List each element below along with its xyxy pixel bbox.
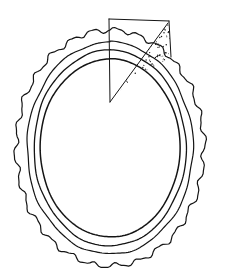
stipple-dot [148, 56, 149, 57]
stipple-dot [150, 64, 151, 65]
stipple-dot [126, 81, 127, 82]
stipple-dot [135, 72, 136, 73]
stipple-dot [168, 32, 169, 33]
stipple-dot [166, 36, 167, 37]
stipple-dot [167, 24, 168, 25]
stipple-dot [166, 44, 168, 46]
stipple-dot [159, 37, 160, 38]
stipple-dot [157, 44, 158, 45]
stipple-dot [143, 69, 144, 70]
stipple-dot [166, 35, 167, 36]
stipple-dot [149, 52, 150, 53]
stipple-dot [163, 59, 164, 60]
stipple-dot [151, 63, 152, 64]
stipple-dot [153, 65, 154, 66]
stipple-dot [159, 55, 160, 56]
stipple-dot [165, 29, 166, 30]
ring-sector-diagram: Concentric ring cross-section with shade… [0, 0, 238, 275]
stipple-dot [161, 36, 163, 38]
figure-background [0, 0, 238, 275]
stipple-dot [162, 56, 163, 57]
stipple-dot [155, 57, 156, 58]
stipple-dot [156, 41, 157, 42]
stipple-dot [155, 43, 156, 44]
stipple-dot [145, 59, 146, 60]
stipple-dot [149, 60, 150, 61]
stipple-dot [164, 59, 165, 60]
stipple-dot [164, 52, 165, 53]
stipple-dot [162, 56, 163, 57]
stipple-dot [163, 32, 164, 33]
stipple-dot [163, 46, 164, 47]
stipple-dot [163, 58, 164, 59]
figure-root: Concentric ring cross-section with shade… [0, 0, 238, 275]
stipple-dot [150, 61, 151, 62]
stipple-dot [157, 55, 158, 56]
stipple-dot [145, 69, 146, 70]
stipple-dot [166, 52, 167, 53]
stipple-dot [157, 47, 158, 48]
stipple-dot [159, 46, 160, 47]
stipple-dot [168, 53, 169, 54]
stipple-dot [143, 65, 144, 66]
stipple-dot [142, 67, 143, 68]
